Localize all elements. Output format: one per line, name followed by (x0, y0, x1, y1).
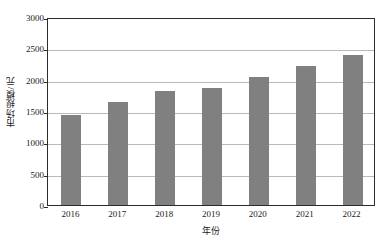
x-axis-tick-label: 2018 (155, 209, 173, 220)
y-axis-tick-label: 500 (31, 170, 45, 179)
bar (249, 77, 269, 205)
bar-chart: 市场规模/元 050010001500200025003000 20162017… (0, 0, 386, 249)
x-axis-tick-label: 2016 (61, 209, 79, 220)
x-axis-tick-label: 2022 (343, 209, 361, 220)
y-axis-tick-labels: 050010001500200025003000 (14, 18, 44, 206)
bar (296, 66, 316, 205)
bar (343, 55, 363, 205)
bar (155, 91, 175, 205)
x-axis-tick-label: 2017 (108, 209, 126, 220)
bars-group (48, 19, 374, 205)
bar (202, 88, 222, 205)
y-axis-tick-label: 3000 (26, 14, 44, 23)
y-axis-tick-label: 2500 (26, 45, 44, 54)
x-axis-tick-labels: 2016201720182019202020212022 (47, 209, 375, 223)
y-axis-tick (44, 207, 48, 208)
x-axis-tick-label: 2019 (202, 209, 220, 220)
y-axis-tick-label: 1000 (26, 139, 44, 148)
bar (108, 102, 128, 205)
x-axis-title: 年份 (47, 224, 375, 237)
plot-area (47, 18, 375, 206)
y-axis-tick-label: 0 (40, 202, 45, 211)
y-axis-tick-label: 2000 (26, 76, 44, 85)
x-axis-tick-label: 2021 (296, 209, 314, 220)
x-axis-tick-label: 2020 (249, 209, 267, 220)
bar (61, 115, 81, 205)
y-axis-tick-label: 1500 (26, 108, 44, 117)
